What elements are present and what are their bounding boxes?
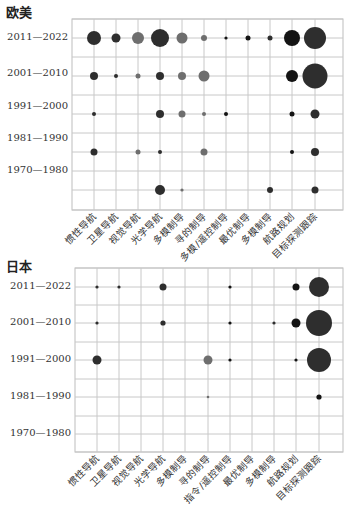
bubble	[92, 112, 96, 116]
bubble	[95, 321, 98, 324]
y-tick-label: 1981—1990	[6, 132, 68, 143]
bubble	[178, 72, 186, 80]
bubble	[224, 36, 227, 39]
y-tick-label: 1991—2000	[6, 100, 68, 111]
bubble	[228, 321, 231, 324]
bubble	[228, 285, 231, 288]
bubble	[177, 33, 188, 44]
bubble	[272, 321, 275, 324]
bubble	[199, 71, 210, 82]
chart-title: 日本	[6, 256, 32, 275]
chart-title: 欧美	[6, 2, 32, 21]
bubble	[160, 284, 167, 291]
bubble	[304, 27, 326, 49]
bubble	[91, 149, 98, 156]
bubble	[151, 29, 169, 47]
bubble	[307, 348, 331, 372]
bubble	[132, 32, 144, 44]
bubble	[155, 185, 165, 195]
bubble	[290, 112, 295, 117]
bubble	[160, 320, 165, 325]
bubble	[267, 187, 273, 193]
bubble	[90, 72, 98, 80]
bubble	[201, 35, 207, 41]
bubble	[179, 111, 186, 118]
y-tick-label: 1991—2000	[9, 353, 71, 364]
bubble	[87, 31, 101, 45]
bubble	[311, 148, 319, 156]
y-tick-label: 1970—1980	[6, 164, 68, 175]
bubble	[312, 187, 319, 194]
y-tick-label: 1981—1990	[9, 390, 71, 401]
bubble	[202, 112, 206, 116]
chart-0: 惯性导航卫星导航视觉导航光学导航多模制导寻的制导多模/遥控制导最优制导多模制导航…	[62, 19, 343, 263]
bubble	[294, 358, 297, 361]
y-tick-label: 2001—2010	[9, 316, 71, 327]
bubble	[268, 36, 273, 41]
bubble	[246, 36, 251, 41]
y-tick-label: 2001—2010	[6, 67, 68, 78]
y-tick-label: 1970—1980	[9, 427, 71, 438]
bubble	[156, 110, 164, 118]
bubble	[224, 112, 228, 116]
bubble	[306, 310, 332, 336]
bubble	[311, 110, 320, 119]
bubble	[293, 284, 300, 291]
bubble	[284, 30, 300, 46]
bubble	[95, 285, 98, 288]
bubble	[309, 277, 329, 297]
bubble	[228, 358, 231, 361]
bubble	[112, 34, 121, 43]
bubble	[201, 149, 208, 156]
bubble	[93, 356, 102, 365]
bubble	[117, 285, 120, 288]
bubble	[204, 356, 213, 365]
chart-1: 惯性导航卫星导航视觉导航光学导航多模制导寻的制导指令/遥控制导最优制导多模制导航…	[65, 268, 343, 505]
y-tick-label: 2011—2022	[9, 280, 71, 291]
bubble	[158, 150, 162, 154]
bubble	[136, 74, 141, 79]
bubble	[303, 64, 328, 89]
bubble	[316, 394, 321, 399]
bubble	[136, 150, 141, 155]
bubble	[114, 74, 118, 78]
bubble	[292, 319, 301, 328]
y-tick-label: 2011—2022	[6, 31, 68, 42]
bubble	[180, 188, 183, 191]
bubble	[156, 72, 164, 80]
bubble	[286, 70, 298, 82]
bubble	[207, 396, 210, 399]
bubble	[290, 150, 294, 154]
